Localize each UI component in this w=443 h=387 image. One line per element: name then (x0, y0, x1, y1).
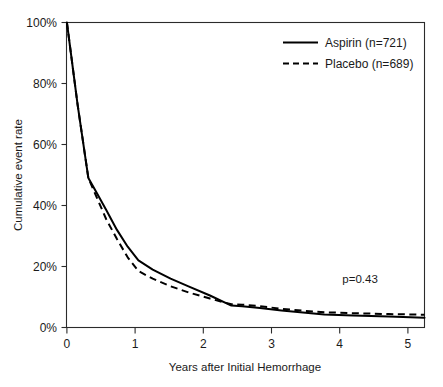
x-tick-label-3: 3 (268, 337, 275, 351)
x-tick-label-5: 5 (405, 337, 412, 351)
p-value-annotation: p=0.43 (342, 273, 378, 285)
x-tick-label-1: 1 (132, 337, 139, 351)
legend-label-aspirin: Aspirin (n=721) (325, 36, 407, 50)
y-tick-label-0: 0% (40, 321, 58, 335)
y-tick-label-20: 20% (33, 260, 57, 274)
x-tick-label-2: 2 (200, 337, 207, 351)
x-axis-title: Years after Initial Hemorrhage (169, 361, 321, 373)
y-tick-label-40: 40% (33, 199, 57, 213)
y-tick-label-60: 60% (33, 138, 57, 152)
x-tick-label-0: 0 (64, 337, 71, 351)
y-axis-title: Cumulative event rate (12, 119, 24, 231)
survival-curve-chart: 100% 80% 60% 40% 20% 0% 0 1 2 3 4 5 Year… (0, 0, 443, 387)
y-tick-label-80: 80% (33, 77, 57, 91)
x-tick-label-4: 4 (336, 337, 343, 351)
legend-label-placebo: Placebo (n=689) (325, 57, 413, 71)
y-tick-label-100: 100% (26, 16, 57, 30)
